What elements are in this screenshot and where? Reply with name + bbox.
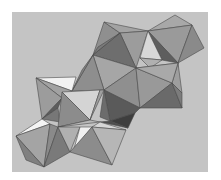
octahedra-render <box>0 0 221 180</box>
